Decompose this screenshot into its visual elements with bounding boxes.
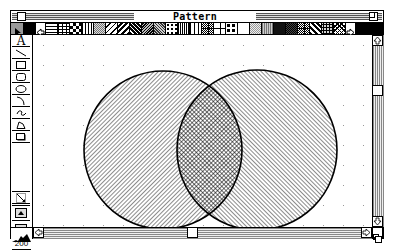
line-weight-icon [11, 232, 32, 243]
shadow-tool[interactable] [12, 131, 30, 143]
pattern-swatch-diag-right[interactable] [106, 23, 118, 34]
vertical-scroll-thumb[interactable] [372, 85, 383, 96]
title-stripes-left [12, 13, 134, 20]
pattern-swatch-diag-wave[interactable] [310, 23, 322, 34]
pattern-swatch-dots[interactable] [226, 23, 238, 34]
pattern-swatch-weave[interactable] [166, 23, 178, 34]
line-pattern-toggle-icon[interactable] [346, 23, 356, 34]
pattern-swatch-diag-mesh[interactable] [334, 23, 346, 34]
scroll-right-arrow-icon[interactable] [361, 227, 372, 238]
diagonal-arrow-icon [14, 193, 28, 203]
round-rect-tool[interactable] [12, 71, 30, 83]
pattern-palette [11, 23, 383, 35]
tool-palette: A 20 [11, 35, 33, 239]
pattern-swatch-diag-fine[interactable] [142, 23, 154, 34]
freehand-tool[interactable] [12, 107, 30, 119]
polygon-icon [14, 120, 28, 130]
horizontal-scroll-thumb[interactable] [187, 227, 198, 238]
pattern-swatch-vlines[interactable] [178, 23, 190, 34]
zoom-in-button[interactable] [12, 205, 30, 221]
line-weight-selector[interactable] [11, 227, 33, 239]
pattern-swatch-dark[interactable] [274, 23, 286, 34]
vertical-scrollbar[interactable] [372, 35, 384, 227]
size-box[interactable] [372, 227, 383, 238]
pattern-swatch-tile-2[interactable] [298, 23, 310, 34]
horizontal-scrollbar[interactable] [33, 227, 372, 239]
rectangle-icon [14, 60, 28, 70]
pattern-swatch-diag-dense[interactable] [154, 23, 166, 34]
pattern-swatch-white[interactable] [238, 23, 250, 34]
pattern-swatch-fine-dots[interactable] [250, 23, 262, 34]
resize-tool[interactable] [12, 191, 30, 204]
window-title: Pattern Intersection-Layer#1 [134, 11, 256, 22]
title-bar[interactable]: Pattern Intersection-Layer#1 [11, 11, 383, 23]
fill-toggle-icon[interactable] [36, 23, 46, 34]
pattern-swatch-checker[interactable] [70, 23, 82, 34]
polygon-tool[interactable] [12, 119, 30, 131]
pattern-swatch-gray[interactable] [262, 23, 274, 34]
pattern-swatch-crosshatch[interactable] [214, 23, 226, 34]
arc-tool[interactable] [12, 95, 30, 107]
line-tool[interactable] [12, 47, 30, 59]
pattern-swatch-diag-right-thick[interactable] [118, 23, 130, 34]
close-box[interactable] [17, 12, 26, 21]
line-icon [14, 48, 28, 58]
title-stripes-right [256, 13, 382, 20]
up-triangle-icon [14, 207, 28, 219]
rect-tool[interactable] [12, 59, 30, 71]
scroll-left-arrow-icon[interactable] [33, 227, 44, 238]
rounded-rectangle-icon [14, 72, 28, 82]
shadow-box-icon [14, 132, 28, 142]
pattern-swatch-dark-gray[interactable] [286, 23, 298, 34]
pattern-swatch-black[interactable] [24, 23, 36, 34]
pattern-swatch-gray-dots[interactable] [94, 23, 106, 34]
canvas-drawing [33, 35, 372, 227]
pen-pattern-preview [356, 23, 383, 34]
oval-tool[interactable] [12, 83, 30, 95]
pattern-swatch-bricks[interactable] [58, 23, 70, 34]
text-tool[interactable]: A [12, 35, 30, 47]
scroll-down-arrow-icon[interactable] [372, 216, 383, 227]
arc-icon [14, 96, 28, 106]
pattern-swatch-diag-left[interactable] [130, 23, 142, 34]
scroll-up-arrow-icon[interactable] [372, 35, 383, 46]
drawing-window: Pattern Intersection-Layer#1 [10, 10, 384, 239]
drawing-canvas[interactable] [33, 35, 372, 227]
pattern-swatch-hlines[interactable] [46, 23, 58, 34]
pattern-swatch-grid[interactable] [82, 23, 94, 34]
zoom-box[interactable] [369, 12, 378, 21]
pattern-swatch-scales[interactable] [322, 23, 334, 34]
freehand-icon [14, 108, 28, 118]
oval-icon [14, 84, 28, 94]
resize-grip-icon [373, 234, 382, 243]
pattern-swatch-tile[interactable] [202, 23, 214, 34]
pointer-tool[interactable] [11, 23, 24, 34]
pattern-swatch-plaid[interactable] [190, 23, 202, 34]
text-A-icon: A [17, 35, 26, 47]
